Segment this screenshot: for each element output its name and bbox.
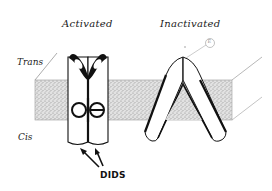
label-inactivated: Inactivated: [160, 19, 220, 29]
activated-channel: [68, 54, 108, 145]
label-activated: Activated: [62, 19, 113, 29]
label-cis: Cis: [18, 133, 32, 142]
dids-arrows: [80, 148, 103, 167]
label-circled-marker: E: [208, 39, 212, 44]
label-dids: DIDS: [100, 170, 126, 180]
label-trans: Trans: [17, 58, 43, 67]
diagram-svg: [0, 0, 272, 191]
diagram-canvas: Activated Inactivated Trans Cis DIDS E: [0, 0, 272, 191]
